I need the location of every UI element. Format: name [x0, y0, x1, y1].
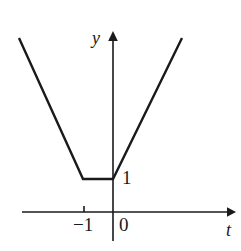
t-axis-label: t — [226, 221, 231, 239]
origin-label: 0 — [119, 215, 129, 234]
t-axis-arrow-icon — [227, 207, 236, 217]
value-label-one: 1 — [122, 168, 132, 187]
function-curve — [19, 38, 182, 179]
tick-label-neg-one: −1 — [73, 215, 93, 234]
y-axis-label: y — [92, 29, 100, 47]
y-axis-arrow-icon — [108, 31, 118, 41]
graph-figure: y t −1 0 1 — [0, 0, 241, 251]
